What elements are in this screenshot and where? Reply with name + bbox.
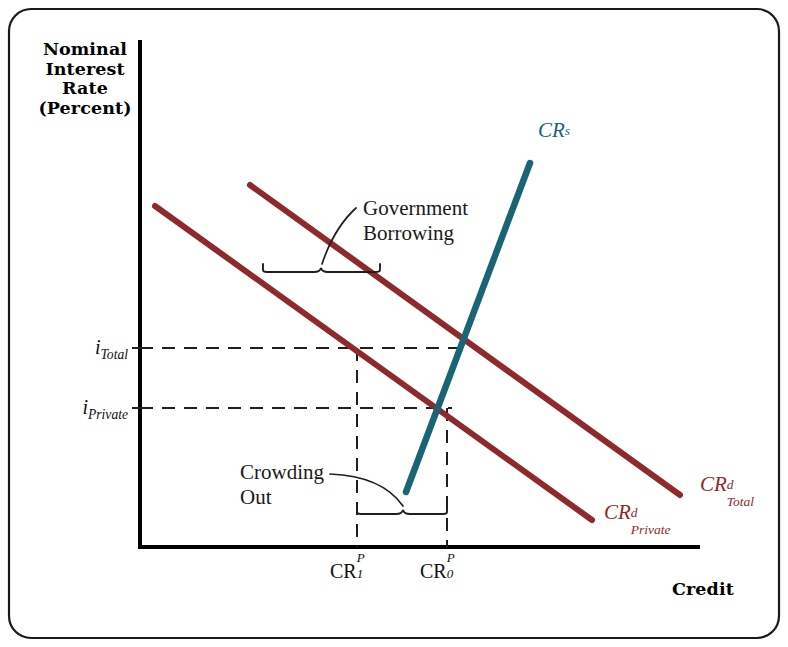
y-axis-title-line-3: Rate: [32, 79, 138, 99]
x-tick-base-cr1: CR: [330, 560, 357, 582]
curve-label-cr-s: CRs: [538, 118, 565, 143]
annotation-government-borrowing-line-2: Borrowing: [363, 221, 468, 246]
x-tick-sup-cr1: P: [357, 550, 365, 566]
y-tick-label-i-private: iPrivate: [18, 396, 128, 419]
x-tick-base-cr0: CR: [420, 560, 447, 582]
curve-cr-d-private: [155, 206, 592, 520]
curve-label-cr-d-private-sup: d: [631, 505, 638, 521]
y-tick-sub-i-private: Private: [88, 407, 128, 422]
annotation-crowding-out-line-2: Out: [240, 485, 324, 510]
annotation-crowding-out: Crowding Out: [240, 460, 324, 510]
x-tick-sub-cr0: 0: [447, 566, 454, 582]
curve-label-cr-d-total-base: CR: [700, 472, 727, 496]
y-tick-label-i-total: iTotal: [30, 336, 128, 359]
y-tick-sub-i-total: Total: [101, 347, 128, 362]
x-tick-sup-cr0: P: [447, 550, 455, 566]
curve-label-cr-d-private-base: CR: [604, 500, 631, 524]
curve-label-cr-d-private: CRdPrivate: [604, 500, 631, 525]
x-tick-label-cr1: CRP1: [330, 558, 366, 583]
annotation-government-borrowing: Government Borrowing: [363, 196, 468, 246]
x-axis-title: Credit: [672, 580, 734, 600]
curve-label-cr-s-sup: s: [565, 123, 570, 139]
curve-label-cr-d-total-sub: Total: [727, 494, 754, 510]
curve-label-cr-d-private-sub: Private: [631, 522, 671, 538]
curve-label-cr-d-total-sup: d: [727, 477, 734, 493]
curve-label-cr-d-total: CRdTotal: [700, 472, 727, 497]
x-tick-scripts-cr1: P1: [357, 558, 366, 578]
x-tick-scripts-cr0: P0: [447, 558, 456, 578]
annotation-crowding-out-line-1: Crowding: [240, 460, 324, 485]
crowding-out-leader: [330, 474, 403, 506]
curve-label-cr-s-base: CR: [538, 118, 565, 142]
y-axis-title-line-2: Interest: [32, 60, 138, 80]
figure-root: Nominal Interest Rate (Percent) Credit i…: [0, 0, 788, 647]
y-axis-title: Nominal Interest Rate (Percent): [32, 40, 138, 118]
crowding-out-brace: [357, 506, 447, 514]
y-axis-title-line-4: (Percent): [32, 99, 138, 119]
y-axis-title-line-1: Nominal: [32, 40, 138, 60]
x-tick-label-cr0: CRP0: [420, 558, 456, 583]
x-tick-sub-cr1: 1: [357, 566, 364, 582]
annotation-government-borrowing-line-1: Government: [363, 196, 468, 221]
